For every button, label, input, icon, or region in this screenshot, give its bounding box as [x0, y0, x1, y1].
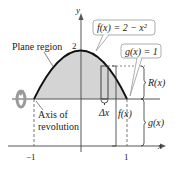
delta-x-brace: [101, 100, 108, 105]
r-bracket-label: R(x): [147, 77, 166, 89]
axis-label-line2: revolution: [38, 121, 79, 132]
tick-x-1: 1: [124, 152, 129, 162]
g-bracket-label: g(x): [148, 117, 165, 129]
y-axis-label: y: [75, 5, 80, 15]
svg-text:g(x) = 1: g(x) = 1: [125, 46, 158, 58]
plane-region-label: Plane region: [12, 41, 62, 52]
x-axis-label: x: [157, 141, 162, 151]
delta-x-label: Δx: [98, 107, 110, 118]
axis-label-line1: Axis of: [38, 109, 68, 120]
tick-y-2: 2: [72, 41, 77, 51]
f-bracket-label: f(x): [118, 108, 133, 120]
plane-region-leader: [44, 52, 54, 68]
g-callout: g(x) = 1: [121, 44, 161, 96]
volume-of-revolution-diagram: f(x) = 2 − x² g(x) = 1 y x 2 −1 1 Plane …: [0, 0, 176, 170]
svg-text:f(x) = 2 − x²: f(x) = 2 − x²: [97, 22, 148, 34]
tick-x-neg1: −1: [26, 152, 36, 162]
g-brace: [141, 99, 146, 146]
r-brace: [141, 66, 146, 99]
